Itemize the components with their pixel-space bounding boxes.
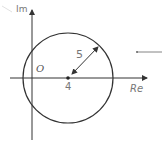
origin-label: O	[36, 63, 44, 74]
center-point	[66, 76, 70, 80]
faint-artifact	[2, 6, 12, 12]
imaginary-axis-label: Im	[16, 4, 27, 14]
complex-plane-diagram: Im Re O 4 5	[0, 0, 162, 145]
radius-label: 5	[76, 48, 83, 61]
real-axis-label: Re	[130, 83, 143, 94]
center-label: 4	[65, 81, 71, 92]
pointer-line	[136, 51, 162, 53]
